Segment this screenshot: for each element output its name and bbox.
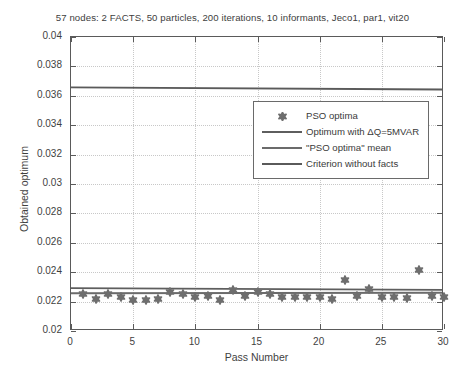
y-axis-tick — [71, 331, 76, 332]
data-point — [428, 292, 436, 300]
y-tick-label: 0.026 — [0, 237, 62, 247]
figure-canvas: 57 nodes: 2 FACTS, 50 particles, 200 ite… — [0, 0, 465, 373]
y-tick-label: 0.02 — [0, 325, 62, 335]
data-point — [179, 290, 187, 298]
data-point — [79, 290, 87, 298]
legend-marker-icon — [260, 108, 304, 124]
legend-item[interactable]: "PSO optima" mean — [254, 140, 428, 156]
data-point — [303, 293, 311, 301]
data-point — [440, 293, 448, 301]
data-point — [142, 296, 150, 304]
x-tick-label: 25 — [361, 337, 401, 347]
x-tick-label: 10 — [174, 337, 214, 347]
x-axis-tick — [444, 324, 445, 329]
x-tick-label: 5 — [112, 337, 152, 347]
data-point — [316, 293, 324, 301]
data-point — [365, 285, 373, 293]
data-point — [353, 292, 361, 300]
data-point — [341, 276, 349, 284]
legend-label: Optimum with ΔQ=5MVAR — [304, 127, 419, 137]
x-tick-label: 30 — [423, 337, 463, 347]
legend-label: PSO optima — [304, 111, 358, 121]
legend-line-icon — [260, 156, 304, 172]
data-point — [204, 292, 212, 300]
data-point — [229, 286, 237, 294]
legend-line-icon — [260, 124, 304, 140]
y-tick-label: 0.032 — [0, 149, 62, 159]
plot-area — [70, 36, 443, 330]
data-point — [328, 295, 336, 303]
data-point — [378, 293, 386, 301]
legend-item[interactable]: Optimum with ΔQ=5MVAR — [254, 124, 428, 140]
y-tick-label: 0.036 — [0, 90, 62, 100]
data-point — [241, 292, 249, 300]
data-point — [117, 293, 125, 301]
data-point — [191, 293, 199, 301]
legend-line-swatch — [262, 147, 302, 149]
y-axis-tick — [437, 331, 442, 332]
chart-legend[interactable]: PSO optimaOptimum with ΔQ=5MVAR"PSO opti… — [253, 101, 429, 179]
data-point — [390, 293, 398, 301]
legend-label: Criterion without facts — [304, 159, 398, 169]
y-tick-label: 0.022 — [0, 296, 62, 306]
y-tick-label: 0.04 — [0, 31, 62, 41]
legend-item[interactable]: PSO optima — [254, 108, 428, 124]
data-point — [129, 296, 137, 304]
x-axis-label: Pass Number — [70, 351, 443, 363]
y-tick-label: 0.028 — [0, 207, 62, 217]
x-axis-tick — [444, 37, 445, 42]
data-point — [266, 290, 274, 298]
data-point — [216, 296, 224, 304]
y-tick-label: 0.038 — [0, 60, 62, 70]
legend-label: "PSO optima" mean — [304, 143, 391, 153]
legend-item[interactable]: Criterion without facts — [254, 156, 428, 172]
data-point — [92, 295, 100, 303]
chart-title: 57 nodes: 2 FACTS, 50 particles, 200 ite… — [0, 12, 465, 23]
x-tick-label: 20 — [299, 337, 339, 347]
y-tick-label: 0.03 — [0, 178, 62, 188]
data-point — [166, 288, 174, 296]
x-tick-label: 0 — [50, 337, 90, 347]
y-tick-label: 0.034 — [0, 119, 62, 129]
legend-line-icon — [260, 140, 304, 156]
scatter-points — [71, 37, 442, 329]
legend-line-swatch — [262, 163, 302, 165]
legend-line-swatch — [262, 131, 302, 133]
data-point — [254, 288, 262, 296]
data-point — [403, 294, 411, 302]
data-point — [291, 293, 299, 301]
y-tick-label: 0.024 — [0, 266, 62, 276]
data-point — [278, 293, 286, 301]
data-point — [104, 290, 112, 298]
x-tick-label: 15 — [237, 337, 277, 347]
data-point — [154, 295, 162, 303]
data-point — [415, 266, 423, 274]
